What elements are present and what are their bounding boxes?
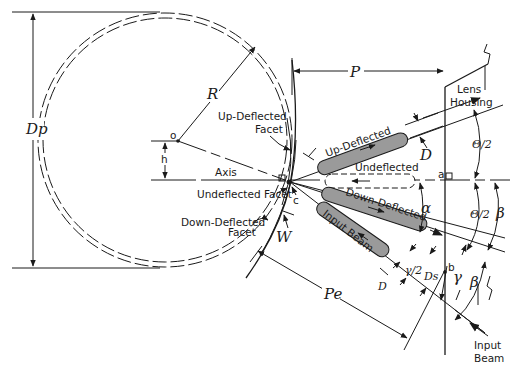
gamma-label: γ [453, 268, 462, 286]
up-deflected-facet-label-2: Facet [255, 123, 283, 135]
w-label: W [276, 228, 293, 246]
pe-dimension: Pe [250, 246, 445, 350]
polygon-scanner-diagram: Dp o R h Axis Up-Deflected Facet Undefle… [0, 0, 525, 369]
lens-housing-label-1: Lens [457, 83, 481, 95]
beta-upper-label: β [495, 204, 505, 222]
undeflected-beam-label: Undeflected [355, 161, 419, 173]
ds-label: Ds [423, 270, 439, 283]
point-a-label: a [438, 168, 444, 180]
radius-label: R [206, 85, 218, 103]
beam-diameter-d-upper: D [419, 146, 432, 164]
down-deflected-facet-label-2: Facet [228, 226, 256, 238]
center-label: o [170, 129, 176, 141]
theta-half-lower-label: Θ/2 [470, 208, 490, 221]
up-deflected-facet-label-1: Up-Deflected [218, 110, 287, 122]
input-beam-outer-label-1: Input [474, 339, 501, 351]
input-beam-outer-label-2: Beam [474, 352, 504, 364]
alpha-label: α [421, 199, 431, 217]
dp-dimension: Dp [12, 12, 160, 268]
beam-diameter-d-lower: D [377, 280, 387, 293]
dp-label: Dp [25, 120, 48, 138]
theta-half-upper-label: Θ/2 [472, 138, 492, 151]
h-label: h [161, 153, 168, 165]
p-label: P [349, 63, 361, 81]
axis-label: Axis [215, 166, 237, 178]
pe-label: Pe [323, 285, 342, 303]
p-dimension: P [292, 58, 443, 95]
angle-annotations: α Θ/2 Θ/2 β β [420, 110, 505, 320]
undeflected-facet-label: Undeflected Facet [197, 188, 292, 200]
contact-point-label: c [293, 194, 299, 206]
point-b: b γ [443, 245, 466, 300]
h-dimension: h [151, 141, 180, 178]
gamma-half-label: γ/2 [405, 264, 422, 277]
